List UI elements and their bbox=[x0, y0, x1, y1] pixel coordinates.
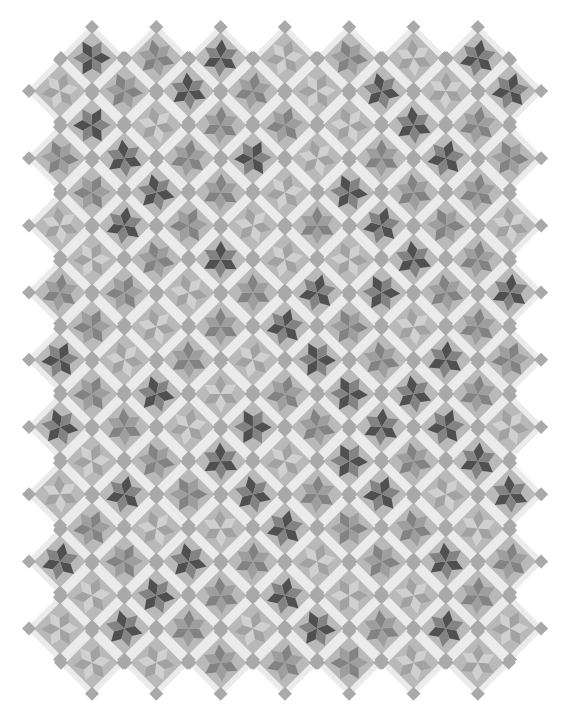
quilt-photo bbox=[0, 0, 570, 723]
